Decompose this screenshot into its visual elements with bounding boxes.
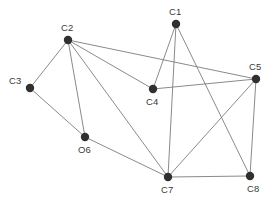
graph-edge: [153, 79, 256, 89]
graph-node-c3[interactable]: [26, 84, 34, 92]
graph-edge: [30, 40, 68, 88]
graph-node-c2[interactable]: [64, 36, 72, 44]
graph-edge: [168, 24, 176, 177]
graph-node-label-c5: C5: [249, 62, 262, 72]
graph-node-label-c3: C3: [9, 76, 22, 86]
graph-edge: [68, 40, 153, 89]
graph-node-c7[interactable]: [164, 173, 172, 181]
graph-node-label-c4: C4: [146, 97, 159, 107]
graph-edge: [250, 79, 256, 176]
graph-edge: [30, 88, 85, 137]
edge-layer: [30, 24, 256, 177]
graph-node-c5[interactable]: [252, 75, 260, 83]
graph-node-label-c8: C8: [247, 184, 260, 194]
graph-edge: [168, 176, 250, 177]
graph-node-label-c1: C1: [169, 7, 182, 17]
graph-figure: C1C2C3C4C5O6C7C8: [0, 0, 273, 205]
graph-node-c4[interactable]: [149, 85, 157, 93]
graph-canvas: [0, 0, 273, 205]
graph-node-c8[interactable]: [246, 172, 254, 180]
graph-edge: [68, 40, 85, 137]
graph-node-label-c2: C2: [61, 23, 74, 33]
graph-node-label-o6: O6: [78, 145, 91, 155]
graph-node-label-c7: C7: [161, 185, 174, 195]
graph-edge: [68, 40, 256, 79]
graph-edge: [153, 24, 176, 89]
graph-edge: [85, 137, 168, 177]
graph-node-o6[interactable]: [81, 133, 89, 141]
graph-node-c1[interactable]: [172, 20, 180, 28]
graph-edge: [176, 24, 250, 176]
graph-edge: [68, 40, 168, 177]
node-layer: [26, 20, 260, 181]
graph-edge: [168, 79, 256, 177]
